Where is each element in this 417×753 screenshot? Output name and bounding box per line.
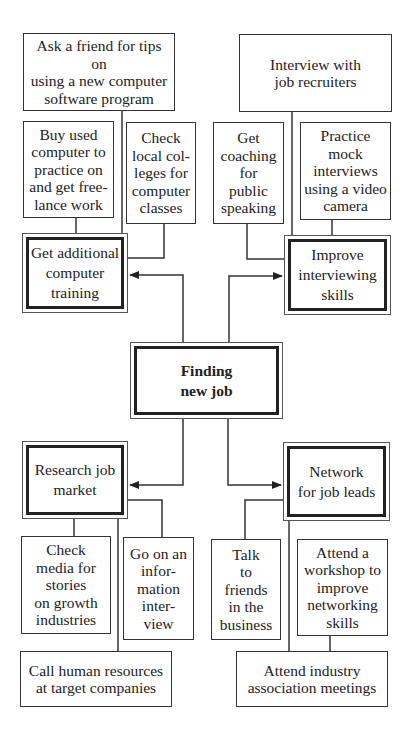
branch-network-leads-label: Network for job leads <box>287 446 386 517</box>
node-public-speaking-coaching: Get coaching for public speaking <box>213 122 284 224</box>
node-industry-meetings: Attend industry association meetings <box>236 651 388 707</box>
node-mock-interviews: Practice mock interviews using a video c… <box>300 122 391 220</box>
center-node: Finding new job <box>130 342 283 419</box>
node-check-local-colleges: Check local col- leges for computer clas… <box>126 122 196 224</box>
center-node-label: Finding new job <box>134 346 279 415</box>
branch-research-market-label: Research job market <box>26 445 124 515</box>
node-call-hr: Call human resources at target companies <box>20 651 172 707</box>
node-networking-workshop: Attend a workshop to improve networking … <box>297 539 388 636</box>
node-information-interview: Go on an infor- mation inter- view <box>123 537 194 640</box>
branch-network-leads: Network for job leads <box>283 442 390 521</box>
branch-research-market: Research job market <box>22 441 128 519</box>
node-ask-friend: Ask a friend for tips on using a new com… <box>23 33 175 111</box>
branch-computer-training-label: Get additional computer training <box>26 237 124 309</box>
branch-interviewing-skills: Improve interviewing skills <box>284 235 391 315</box>
node-check-media: Check media for stories on growth indust… <box>21 536 111 634</box>
node-interview-recruiters: Interview with job recruiters <box>239 34 392 112</box>
branch-computer-training: Get additional computer training <box>22 233 128 313</box>
branch-interviewing-skills-label: Improve interviewing skills <box>288 239 387 311</box>
node-buy-used-computer: Buy used computer to practice on and get… <box>23 121 114 218</box>
node-talk-to-friends: Talk to friends in the business <box>211 539 281 640</box>
